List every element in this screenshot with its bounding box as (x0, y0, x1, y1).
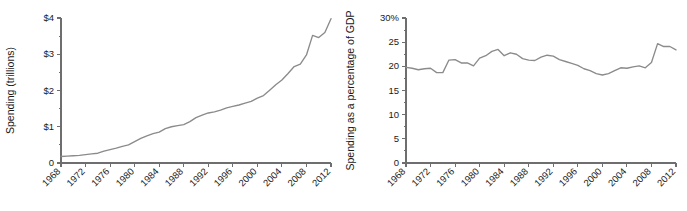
y-tick-label: $2 (43, 85, 54, 96)
x-tick-label: 1968 (385, 166, 408, 189)
y-tick-label: 20 (388, 60, 399, 71)
y-tick-label: 25 (388, 36, 399, 47)
y-axis-title: Spending (trillions) (4, 47, 16, 134)
x-tick-label: 2012 (655, 166, 678, 189)
x-tick-label: 2004 (261, 166, 284, 189)
x-tick-label: 1980 (458, 166, 481, 189)
x-tick-label: 1976 (89, 166, 112, 189)
chart-svg-spending-trillions: $4$3$2$101968197219761980198419881992199… (0, 0, 344, 211)
x-tick-label: 2012 (310, 166, 333, 189)
chart-panel-spending-trillions: $4$3$2$101968197219761980198419881992199… (0, 0, 344, 211)
data-series-line (406, 44, 676, 75)
x-tick-label: 1968 (40, 166, 63, 189)
y-tick-label: $1 (43, 121, 54, 132)
x-tick-label: 2008 (285, 166, 308, 189)
y-tick-label: 10 (388, 109, 399, 120)
y-tick-label: 5 (394, 133, 399, 144)
x-tick-label: 1984 (483, 166, 506, 189)
x-tick-label: 2000 (581, 166, 604, 189)
x-tick-label: 1996 (557, 166, 580, 189)
x-tick-label: 2004 (606, 166, 629, 189)
x-tick-label: 1976 (434, 166, 457, 189)
chart-svg-spending-pct-gdp: 30%2520151050196819721976198019841988199… (344, 0, 687, 211)
y-tick-label: $3 (43, 48, 54, 59)
x-tick-label: 1984 (138, 166, 161, 189)
chart-panel-spending-pct-gdp: 30%2520151050196819721976198019841988199… (344, 0, 687, 211)
x-tick-label: 2008 (630, 166, 653, 189)
x-tick-label: 1972 (64, 166, 87, 189)
x-tick-label: 1992 (187, 166, 210, 189)
y-tick-label: 15 (388, 85, 399, 96)
y-axis-title: Spending as a percentage of GDP (344, 11, 356, 171)
x-tick-label: 1996 (212, 166, 235, 189)
data-series-line (61, 19, 331, 157)
y-tick-label: $4 (43, 12, 54, 23)
x-tick-label: 1988 (162, 166, 185, 189)
x-tick-label: 1980 (113, 166, 136, 189)
figure-container: $4$3$2$101968197219761980198419881992199… (0, 0, 687, 211)
x-tick-label: 1992 (532, 166, 555, 189)
y-tick-label: 30% (380, 12, 400, 23)
x-tick-label: 1988 (507, 166, 530, 189)
x-tick-label: 1972 (409, 166, 432, 189)
x-tick-label: 2000 (236, 166, 259, 189)
